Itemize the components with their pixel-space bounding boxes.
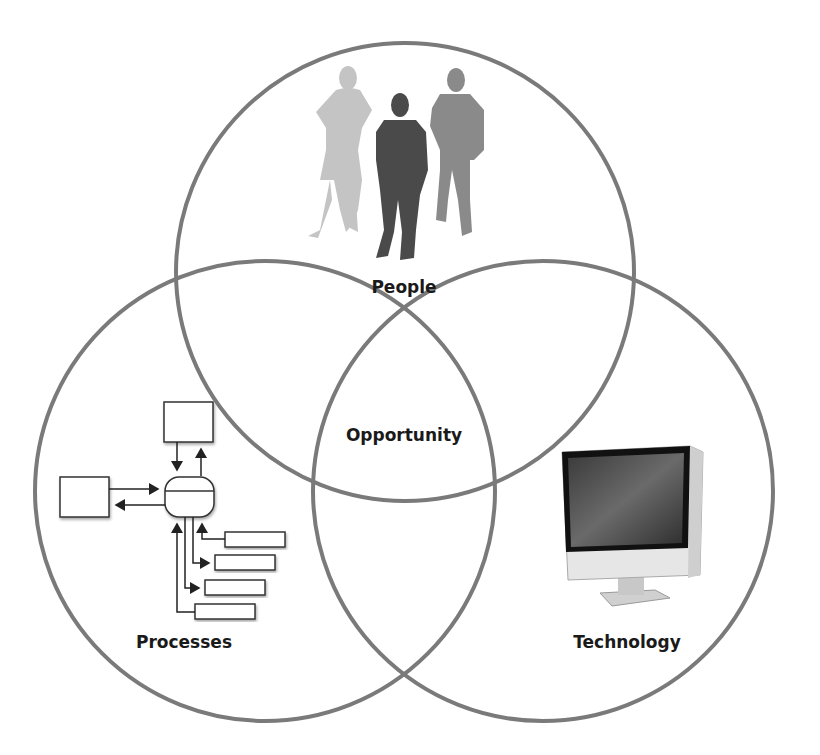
technology-label: Technology (573, 632, 681, 652)
processes-label: Processes (136, 632, 232, 652)
desktop-computer-icon (562, 446, 703, 606)
venn-diagram (0, 0, 820, 755)
process-flow-diagram-icon (60, 402, 285, 619)
people-label: People (371, 277, 436, 297)
technology-circle (313, 261, 773, 721)
business-people-silhouettes-icon (308, 66, 484, 260)
opportunity-label: Opportunity (346, 425, 462, 445)
